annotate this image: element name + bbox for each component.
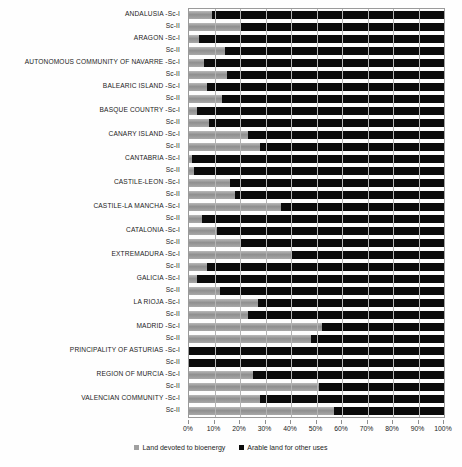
stacked-bar [189,275,444,283]
bar-segment-arable [248,311,444,319]
x-axis-tick [392,420,393,424]
bar-row [189,141,444,153]
bar-segment-bioenergy [189,395,260,403]
bar-segment-arable [197,107,444,115]
x-axis-tick [188,420,189,424]
bar-row [189,333,444,345]
category-label: Sc-II [166,359,180,366]
chart-legend: Land devoted to bioenergy Arable land fo… [0,444,462,451]
stacked-bar [189,203,444,211]
bar-segment-arable [204,59,444,67]
bar-segment-arable [222,95,444,103]
bar-row [189,381,444,393]
category-label: Sc-II [166,263,180,270]
bar-segment-arable [199,35,444,43]
x-axis-tick-label: 80% [385,425,399,432]
category-label: Sc-II [166,71,180,78]
bar-row [189,393,444,405]
stacked-bar [189,35,444,43]
category-label: Sc-II [166,407,180,414]
bar-segment-bioenergy [189,95,222,103]
category-label: EXTREMADURA -Sc-I [112,251,181,258]
category-label: PRINCIPALITY OF ASTURIAS -Sc-I [70,347,180,354]
bar-row [189,117,444,129]
bar-segment-arable [209,119,444,127]
category-label: Sc-II [166,23,180,30]
category-label: Sc-II [166,95,180,102]
category-label: LA RIOJA -Sc-I [134,299,180,306]
stacked-bar [189,59,444,67]
bar-row [189,213,444,225]
x-axis-tick [290,420,291,424]
stacked-bar [189,131,444,139]
bar-row [189,273,444,285]
x-axis-tick [418,420,419,424]
bar-row [189,405,444,417]
category-label: CANARY ISLAND -Sc-I [109,131,181,138]
bar-segment-arable [220,287,444,295]
stacked-bar [189,107,444,115]
bar-row [189,309,444,321]
stacked-bar [189,335,444,343]
bar-segment-arable [260,143,444,151]
bar-segment-bioenergy [189,383,319,391]
legend-label-arable: Arable land for other uses [247,444,327,451]
bar-segment-arable [217,227,444,235]
stacked-bar [189,155,444,163]
bar-row [189,9,444,21]
category-label: VALENCIAN COMMUNITY -Sc-I [81,395,180,402]
bar-segment-bioenergy [189,119,209,127]
bar-segment-arable [189,359,444,367]
stacked-bar [189,239,444,247]
category-label: Sc-II [166,167,180,174]
x-axis-tick-label: 90% [411,425,425,432]
stacked-bar [189,323,444,331]
category-label: Sc-II [166,119,180,126]
bar-segment-arable [258,299,444,307]
category-axis-labels: ANDALUSIA -Sc-ISc-IIARAGON -Sc-ISc-IIAUT… [0,8,186,416]
legend-item-bioenergy: Land devoted to bioenergy [134,444,225,451]
bar-segment-bioenergy [189,131,248,139]
category-label: Sc-II [166,311,180,318]
bar-row [189,93,444,105]
bar-row [189,261,444,273]
bar-segment-arable [240,239,444,247]
bar-segment-bioenergy [189,299,258,307]
bar-row [189,105,444,117]
category-label: Sc-II [166,383,180,390]
bar-segment-arable [197,275,444,283]
bar-segment-arable [281,203,444,211]
bar-row [189,21,444,33]
bar-segment-bioenergy [189,35,199,43]
x-axis-tick-label: 100% [434,425,451,432]
bars-plot-region [188,8,445,418]
bar-segment-arable [227,71,444,79]
bar-segment-bioenergy [189,179,230,187]
bar-segment-bioenergy [189,251,291,259]
x-axis-tick [316,420,317,424]
stacked-bar [189,167,444,175]
category-label: Sc-II [166,287,180,294]
bar-row [189,57,444,69]
stacked-bar [189,215,444,223]
bar-segment-bioenergy [189,83,207,91]
stacked-bar [189,263,444,271]
bar-segment-arable [202,215,444,223]
category-label: Sc-II [166,143,180,150]
bar-segment-arable [212,11,444,19]
bar-row [189,81,444,93]
stacked-bar-chart: ANDALUSIA -Sc-ISc-IIARAGON -Sc-ISc-IIAUT… [0,0,462,467]
category-label: GALICIA -Sc-I [137,275,180,282]
category-label: Sc-II [166,47,180,54]
bar-segment-arable [225,47,444,55]
bar-segment-bioenergy [189,191,235,199]
x-axis-tick [239,420,240,424]
stacked-bar [189,23,444,31]
bar-segment-bioenergy [189,275,197,283]
legend-swatch-icon-arable [239,445,244,450]
bar-segment-bioenergy [189,59,204,67]
bar-segment-bioenergy [189,71,227,79]
x-axis-tick-label: 40% [283,425,297,432]
bar-segment-bioenergy [189,323,322,331]
bar-segment-bioenergy [189,311,248,319]
